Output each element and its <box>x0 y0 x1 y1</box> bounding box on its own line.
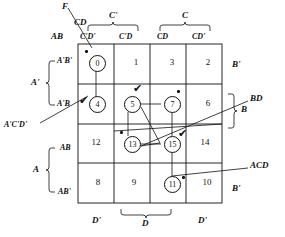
row-header-3: AB' <box>58 188 71 196</box>
cell-minterm-14[interactable]: 14 <box>195 138 215 147</box>
cell-minterm-7[interactable]: 7 <box>164 96 181 113</box>
column-header-3: CD' <box>192 33 205 41</box>
cell-minterm-1[interactable]: 1 <box>126 58 146 67</box>
term-label-a-prime-c-prime-d-prime: A'C'D' <box>4 121 27 129</box>
cell-minterm-11[interactable]: 11 <box>164 176 181 193</box>
cell-minterm-9[interactable]: 9 <box>124 178 144 187</box>
brace-c <box>160 22 210 31</box>
row-header-0: A'B' <box>57 57 72 65</box>
dot-marker-cell-13 <box>120 131 123 134</box>
dot-marker-cell-7 <box>177 90 180 93</box>
column-header-2: CD <box>157 33 168 41</box>
cell-minterm-10[interactable]: 10 <box>197 178 217 187</box>
brace-b <box>228 94 237 128</box>
check-marker-cell-5: ✔ <box>133 83 142 94</box>
column-header-0: C'D' <box>80 33 96 41</box>
bottom-label-d-prime-left: D' <box>92 216 101 225</box>
check-marker-cell-15: ✔ <box>178 128 187 139</box>
cell-minterm-3[interactable]: 3 <box>162 58 182 67</box>
cell-minterm-2[interactable]: 2 <box>198 58 218 67</box>
cell-minterm-12[interactable]: 12 <box>86 138 106 147</box>
cell-minterm-8[interactable]: 8 <box>88 178 108 187</box>
cell-minterm-6[interactable]: 6 <box>198 99 218 108</box>
function-label: F <box>62 2 68 11</box>
right-label-b-prime-top: B' <box>232 60 241 69</box>
bottom-label-d: D <box>142 219 149 228</box>
kmap-diagram: F CD AB C' C C'D' C'D CD CD' A'B' A'B AB… <box>0 0 285 237</box>
rows-var-label: AB <box>51 32 63 41</box>
cell-minterm-5[interactable]: 5 <box>124 96 141 113</box>
cell-minterm-0[interactable]: 0 <box>89 55 106 72</box>
brace-d <box>121 209 171 218</box>
bottom-label-d-prime-right: D' <box>198 216 207 225</box>
check-marker-cell-4: ✔ <box>79 95 88 106</box>
brace-c-prime <box>88 22 138 31</box>
bd-leader-line-a <box>141 107 160 143</box>
row-header-2: AB <box>60 144 71 152</box>
brace-a-prime <box>46 61 55 105</box>
term-label-bd: BD <box>250 94 263 103</box>
acd-leader-line <box>172 168 248 176</box>
right-label-b: B <box>241 105 247 114</box>
row-header-1: A'B <box>57 100 70 108</box>
row-group-a-label: A <box>33 165 39 174</box>
term-label-acd: ACD <box>250 161 269 170</box>
cell-minterm-4[interactable]: 4 <box>89 96 106 113</box>
dot-marker-cell-11 <box>182 176 185 179</box>
row-group-a-prime-label: A' <box>31 78 40 87</box>
brace-a <box>46 148 55 192</box>
columns-var-label: CD <box>74 18 87 27</box>
column-group-c-prime-label: C' <box>109 11 118 20</box>
dot-marker-cell-0 <box>85 50 88 53</box>
kmap-vector-layer <box>0 0 285 237</box>
bd-leader-line-d <box>114 124 222 131</box>
column-group-c-label: C <box>182 11 188 20</box>
column-header-1: C'D <box>119 33 132 41</box>
right-label-b-prime-bottom: B' <box>232 184 241 193</box>
cell-minterm-13[interactable]: 13 <box>124 136 141 153</box>
